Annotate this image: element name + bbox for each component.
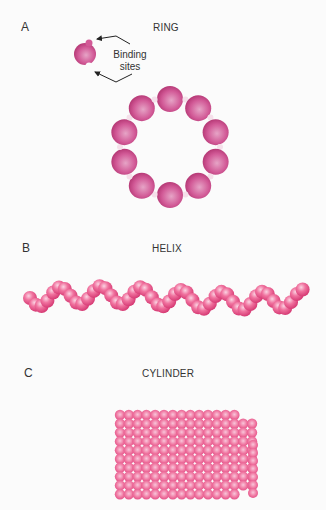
binding-site-arrows (95, 36, 132, 82)
ring-assembly (111, 86, 228, 208)
diagram-canvas (0, 0, 326, 510)
monomer-subunit-icon (74, 40, 96, 70)
helix-assembly (23, 279, 310, 316)
cylinder-assembly (115, 410, 258, 500)
